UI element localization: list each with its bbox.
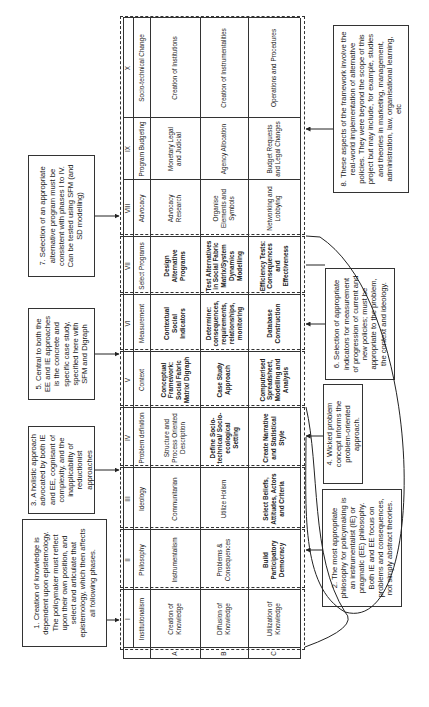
connector-arrows <box>0 0 429 707</box>
diagram-canvas: A B C I Institutionalism Creation of Kno… <box>0 0 429 707</box>
